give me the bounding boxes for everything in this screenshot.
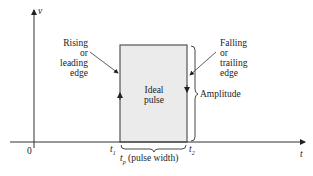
pulse-width-brace [121, 145, 186, 152]
pulse-label-line1: Ideal [132, 85, 176, 95]
t1-sub: 1 [113, 150, 116, 156]
falling-leader-arrow [190, 52, 216, 75]
origin-label: 0 [27, 146, 32, 156]
x-axis-label: t [300, 149, 303, 159]
pulse-label: Ideal pulse [132, 85, 176, 105]
falling-line4: edge [220, 68, 247, 78]
rising-line1: Rising [56, 38, 88, 48]
rising-line4: edge [56, 68, 88, 78]
pulse-width-text: (pulse width) [128, 153, 178, 163]
falling-line3: trailing [220, 58, 247, 68]
t1-label: t1 [110, 144, 116, 158]
y-axis-label: v [38, 6, 42, 16]
rising-line3: leading [56, 58, 88, 68]
rising-line2: or [56, 48, 88, 58]
tp-sub: p [123, 159, 126, 165]
rising-edge-label: Rising or leading edge [56, 38, 88, 78]
t2-sub: 2 [192, 150, 195, 156]
pulse-width-label: tp (pulse width) [120, 153, 178, 167]
amplitude-brace [191, 46, 198, 141]
falling-line2: or [220, 48, 247, 58]
falling-edge-label: Falling or trailing edge [220, 38, 247, 78]
pulse-diagram: v t 0 Rising or leading edge Falling or … [0, 0, 313, 176]
falling-line1: Falling [220, 38, 247, 48]
rising-leader-arrow [90, 52, 118, 73]
t2-label: t2 [189, 144, 195, 158]
amplitude-label: Amplitude [200, 89, 241, 99]
pulse-label-line2: pulse [132, 95, 176, 105]
